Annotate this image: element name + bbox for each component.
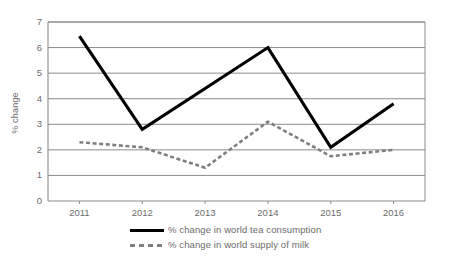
chart-legend: % change in world tea consumption % chan… xyxy=(128,222,388,252)
data-series-layer xyxy=(79,36,393,168)
legend-label-milk: % change in world supply of milk xyxy=(166,239,309,250)
dashed-line-swatch-icon xyxy=(128,240,166,250)
plot-area xyxy=(0,0,454,259)
plot-frame xyxy=(48,22,425,204)
legend-item-tea: % change in world tea consumption xyxy=(128,222,388,237)
series-line-tea xyxy=(79,36,393,147)
gridlines xyxy=(48,22,425,175)
solid-line-swatch-icon xyxy=(128,225,166,235)
series-line-milk xyxy=(79,122,393,168)
line-chart: % change 01234567 2011201220132014201520… xyxy=(0,0,454,259)
legend-label-tea: % change in world tea consumption xyxy=(166,224,321,235)
legend-item-milk: % change in world supply of milk xyxy=(128,237,388,252)
